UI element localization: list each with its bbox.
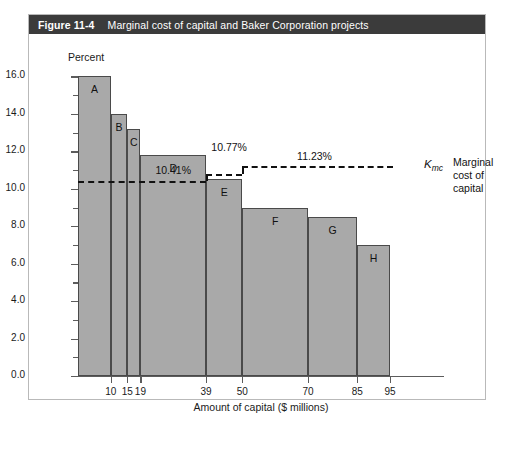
y-tick-label: 0.0 (11, 369, 25, 380)
mcc-riser (242, 166, 244, 175)
figure-container: Figure 11-4 Marginal cost of capital and… (28, 14, 486, 400)
x-tick-mark (127, 376, 128, 383)
bar-project-g: G (308, 217, 357, 376)
x-tick-mark (242, 376, 243, 383)
bar-label: F (243, 215, 307, 227)
bar-label: G (309, 224, 356, 236)
legend-label: Marginalcost ofcapital (453, 156, 511, 195)
x-tick-mark (357, 376, 358, 383)
bar-project-c: C (127, 129, 140, 376)
kmc-symbol-subscript: mc (432, 163, 443, 173)
y-tick-mark (71, 339, 78, 340)
y-tick-mark (71, 114, 78, 115)
mcc-riser (206, 174, 208, 181)
x-tick-mark (111, 376, 112, 383)
y-axis-title: Percent (68, 51, 104, 63)
x-tick-mark (390, 376, 391, 383)
x-tick-label: 39 (201, 386, 212, 397)
mcc-value-label: 10.41% (155, 164, 191, 176)
x-axis-title: Amount of capital ($ millions) (78, 401, 444, 413)
y-tick-label: 16.0 (6, 69, 25, 80)
bar-label: A (79, 83, 110, 95)
x-tick-label: 95 (385, 386, 396, 397)
y-tick-mark (71, 264, 78, 265)
x-tick-label: 10 (105, 386, 116, 397)
y-tick-label: 2.0 (11, 332, 25, 343)
mcc-segment (206, 174, 242, 176)
legend-line: capital (453, 182, 511, 195)
bar-project-a: A (78, 76, 111, 376)
bar-project-d: D (140, 155, 206, 376)
y-tick-mark (71, 226, 78, 227)
legend-line: Marginal (453, 156, 511, 169)
bar-label: C (128, 136, 139, 148)
y-tick-label: 10.0 (6, 182, 25, 193)
mcc-value-label: 11.23% (297, 150, 332, 162)
bar-label: B (112, 121, 126, 133)
bar-project-h: H (357, 245, 390, 376)
x-tick-label: 19 (135, 386, 146, 397)
mcc-value-label: 10.77% (211, 141, 247, 153)
y-tick-label: 8.0 (11, 219, 25, 230)
x-tick-label: 50 (237, 386, 248, 397)
y-tick-label: 14.0 (6, 107, 25, 118)
mcc-segment (242, 166, 393, 168)
y-tick-mark (71, 76, 78, 77)
y-tick-mark (71, 301, 78, 302)
chart-plot-area: Percent 0.02.04.06.08.010.012.014.016.0 … (29, 15, 485, 399)
bar-project-e: E (206, 179, 242, 376)
x-tick-label: 85 (352, 386, 363, 397)
y-tick-mark (71, 189, 78, 190)
y-tick-mark (71, 376, 78, 377)
kmc-symbol-letter: K (424, 158, 432, 170)
x-tick-label: 15 (122, 386, 133, 397)
x-tick-mark (140, 376, 141, 383)
bar-label: H (358, 252, 389, 264)
x-tick-mark (206, 376, 207, 383)
y-tick-label: 12.0 (6, 144, 25, 155)
legend-line: cost of (453, 169, 511, 182)
x-tick-mark (308, 376, 309, 383)
bar-project-f: F (242, 208, 308, 376)
kmc-symbol-label: Kmc (424, 158, 443, 173)
bar-label: E (207, 186, 241, 198)
y-tick-mark (71, 151, 78, 152)
y-tick-label: 4.0 (11, 294, 25, 305)
x-tick-label: 70 (302, 386, 313, 397)
y-tick-label: 6.0 (11, 257, 25, 268)
bar-project-b: B (111, 114, 127, 376)
mcc-segment (78, 181, 206, 183)
